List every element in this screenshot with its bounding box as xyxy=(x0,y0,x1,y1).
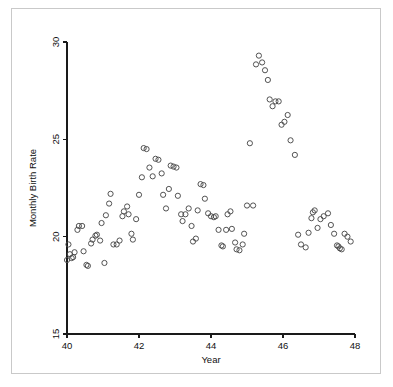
x-tick-label: 48 xyxy=(350,340,361,351)
data-point xyxy=(117,238,122,243)
data-point xyxy=(166,186,171,191)
data-point xyxy=(94,232,99,237)
data-point xyxy=(150,174,155,179)
y-axis-title: Monthly Birth Rate xyxy=(27,149,38,227)
data-point xyxy=(193,236,198,241)
x-tick-label: 40 xyxy=(62,340,73,351)
data-point xyxy=(342,231,347,236)
data-point xyxy=(134,217,139,222)
data-point xyxy=(348,239,353,244)
data-point xyxy=(306,230,311,235)
y-axis-tick-labels: 15202530 xyxy=(50,37,61,340)
data-point xyxy=(229,226,234,231)
data-point xyxy=(189,223,194,228)
data-point xyxy=(240,242,245,247)
data-point xyxy=(253,62,258,67)
data-point xyxy=(180,218,185,223)
data-point xyxy=(129,231,134,236)
data-point xyxy=(288,138,293,143)
data-point xyxy=(206,211,211,216)
data-point xyxy=(175,193,180,198)
data-point xyxy=(102,260,107,265)
data-points xyxy=(64,53,353,268)
data-point xyxy=(130,237,135,242)
y-tick-label: 25 xyxy=(50,134,61,145)
data-point xyxy=(332,231,337,236)
data-point xyxy=(228,209,233,214)
data-point xyxy=(318,217,323,222)
data-point xyxy=(242,231,247,236)
data-point xyxy=(224,227,229,232)
data-point xyxy=(103,213,108,218)
data-point xyxy=(125,204,130,209)
data-point xyxy=(220,244,225,249)
data-point xyxy=(315,225,320,230)
data-point xyxy=(108,191,113,196)
y-axis-ticks xyxy=(63,42,67,334)
data-point xyxy=(265,77,270,82)
data-point xyxy=(81,249,86,254)
data-point xyxy=(80,223,85,228)
data-point xyxy=(256,53,261,58)
data-point xyxy=(339,247,344,252)
data-point xyxy=(328,222,333,227)
y-tick-label: 20 xyxy=(50,231,61,242)
data-point xyxy=(159,171,164,176)
data-point xyxy=(195,208,200,213)
data-point xyxy=(262,68,267,73)
data-point xyxy=(303,245,308,250)
data-point xyxy=(282,119,287,124)
data-point xyxy=(85,263,90,268)
data-point xyxy=(309,216,314,221)
data-point xyxy=(285,112,290,117)
chart-canvas: 15202530 4042444648 Monthly Birth Rate Y… xyxy=(0,0,393,387)
x-axis-tick-labels: 4042444648 xyxy=(62,340,361,351)
y-tick-label: 30 xyxy=(50,37,61,48)
data-point xyxy=(147,165,152,170)
data-point xyxy=(296,232,301,237)
scatter-plot: 15202530 4042444648 Monthly Birth Rate Y… xyxy=(0,0,393,387)
data-point xyxy=(345,234,350,239)
data-point xyxy=(202,196,207,201)
data-point xyxy=(98,238,103,243)
data-point xyxy=(216,227,221,232)
data-point xyxy=(163,206,168,211)
x-axis-ticks xyxy=(67,334,355,338)
data-point xyxy=(247,141,252,146)
data-point xyxy=(161,192,166,197)
x-tick-label: 42 xyxy=(134,340,145,351)
data-point xyxy=(186,206,191,211)
data-point xyxy=(225,212,230,217)
data-point xyxy=(139,175,144,180)
data-point xyxy=(107,201,112,206)
data-point xyxy=(99,220,104,225)
data-point xyxy=(251,203,256,208)
data-point xyxy=(190,239,195,244)
data-point xyxy=(72,250,77,255)
y-tick-label: 15 xyxy=(50,329,61,340)
x-tick-label: 46 xyxy=(278,340,289,351)
data-point xyxy=(267,97,272,102)
data-point xyxy=(126,212,131,217)
x-axis-title: Year xyxy=(201,354,220,365)
data-point xyxy=(292,152,297,157)
data-point xyxy=(276,99,281,104)
x-tick-label: 44 xyxy=(206,340,217,351)
data-point xyxy=(270,104,275,109)
data-point xyxy=(244,203,249,208)
data-point xyxy=(325,211,330,216)
data-point xyxy=(260,60,265,65)
data-point xyxy=(233,240,238,245)
data-point xyxy=(279,122,284,127)
data-point xyxy=(136,192,141,197)
